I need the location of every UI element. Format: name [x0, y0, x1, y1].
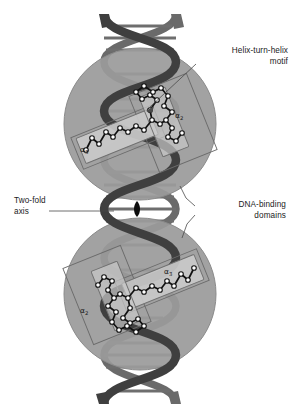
two-fold-axis-label: Two-fold axis: [14, 196, 76, 217]
upper-alpha2-label: α2: [175, 112, 183, 123]
lower-alpha2-label: α2: [80, 307, 88, 318]
lower-alpha3-label: α3: [164, 268, 172, 279]
helix-turn-helix-label: Helix-turn-helix motif: [196, 46, 288, 67]
dna-binding-domains-label: DNA-binding domains: [196, 200, 286, 221]
upper-alpha3-label: α3: [80, 146, 88, 157]
